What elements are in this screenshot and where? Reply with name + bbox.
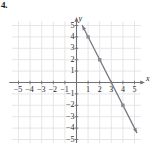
figure-container: 4. −5−4−3−2−112345−5−4−3−2−112345 x y: [0, 0, 150, 143]
x-tick-label-3: 3: [109, 86, 113, 94]
x-tick-label--2: −2: [49, 86, 58, 94]
x-tick-label-5: 5: [133, 86, 137, 94]
x-tick-label-2: 2: [98, 86, 102, 94]
y-tick-label--1: −1: [66, 90, 75, 98]
y-axis-label: y: [79, 15, 83, 23]
x-tick-label-4: 4: [121, 86, 125, 94]
y-tick-label--3: −3: [66, 113, 75, 121]
x-tick-label-1: 1: [86, 86, 90, 94]
y-tick-label-1: 1: [71, 67, 75, 75]
y-tick-label-5: 5: [71, 22, 75, 30]
x-tick-label--5: −5: [14, 86, 23, 94]
y-tick-label--5: −5: [66, 136, 75, 144]
x-tick-label--3: −3: [37, 86, 46, 94]
y-tick-label--4: −4: [66, 124, 75, 132]
y-tick-label-2: 2: [71, 56, 75, 64]
y-tick-label-3: 3: [71, 44, 75, 52]
x-axis-label: x: [146, 75, 150, 83]
y-tick-label-4: 4: [71, 33, 75, 41]
coordinate-plane-graph: [0, 0, 150, 143]
axes: [9, 17, 145, 143]
x-tick-label--4: −4: [25, 86, 34, 94]
y-tick-label--2: −2: [66, 101, 75, 109]
